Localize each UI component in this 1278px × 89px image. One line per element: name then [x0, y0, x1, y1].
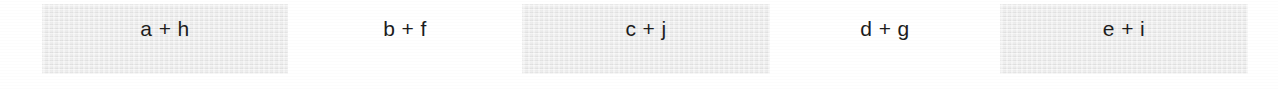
shaded-cell: c + j [522, 4, 770, 74]
cell-label: c + j [625, 18, 666, 39]
cell-label: b + f [383, 18, 426, 39]
cell-label: e + i [1103, 18, 1145, 39]
shaded-cell: e + i [1000, 4, 1248, 74]
shaded-cell: a + h [42, 4, 288, 74]
plain-cell: b + f [288, 4, 522, 74]
term-pairing-strip: a + hb + fc + jd + ge + i [0, 0, 1278, 89]
cell-label: a + h [140, 18, 189, 39]
cell-label: d + g [860, 18, 909, 39]
plain-cell: d + g [770, 4, 1000, 74]
